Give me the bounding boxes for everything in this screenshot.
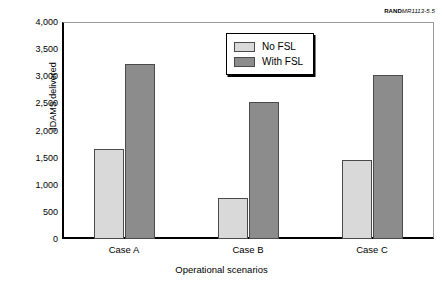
x-tick-label: Case C	[332, 244, 412, 255]
bar-group	[94, 22, 155, 239]
x-tick-label: Case A	[84, 244, 164, 255]
chart-legend: No FSLWith FSL	[226, 33, 314, 75]
y-tick-label: 3,000	[12, 72, 58, 81]
y-tick-label: 2,000	[12, 126, 58, 135]
x-axis-title: Operational scenarios	[0, 264, 443, 275]
bar	[94, 149, 124, 239]
bar-group	[342, 22, 403, 239]
legend-label: With FSL	[262, 56, 303, 67]
rand-logo-text: RAND	[384, 8, 402, 14]
legend-swatch	[234, 42, 255, 52]
y-tick-label: 0	[12, 235, 58, 244]
y-tick-label: 1,500	[12, 153, 58, 162]
bar	[373, 75, 403, 239]
y-tick-label: 1,000	[12, 180, 58, 189]
legend-item: No FSL	[234, 39, 303, 54]
legend-label: No FSL	[262, 41, 296, 52]
y-tick-label: 500	[12, 207, 58, 216]
rand-document-number: MR1113-5.5	[402, 8, 435, 14]
legend-swatch	[234, 57, 255, 67]
x-tick-label: Case B	[208, 244, 288, 255]
y-tick-label: 4,000	[12, 18, 58, 27]
bar	[125, 64, 155, 239]
bar	[218, 198, 248, 239]
figure: RANDMR1113-5.5 JDAMS delivered 05001,000…	[0, 0, 443, 292]
rand-source-credit: RANDMR1113-5.5	[384, 8, 435, 14]
y-tick-label: 2,500	[12, 99, 58, 108]
legend-item: With FSL	[234, 54, 303, 69]
y-tick-label: 3,500	[12, 45, 58, 54]
bar	[249, 102, 279, 239]
bar	[342, 160, 372, 239]
